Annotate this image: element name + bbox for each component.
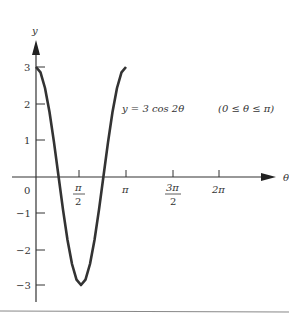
curve-3cos2theta bbox=[36, 67, 126, 285]
x-tick-pi-over-2-den: 2 bbox=[75, 196, 81, 207]
y-ticks bbox=[36, 67, 45, 285]
y-axis-label: y bbox=[31, 25, 38, 36]
origin-label: 0 bbox=[24, 185, 30, 196]
x-tick-2pi: 2π bbox=[211, 184, 225, 195]
x-tick-3pi-over-2-den: 2 bbox=[170, 196, 176, 207]
chart: y θ 0 3 2 1 −1 −2 −3 π 2 π 3π 2 2π y = 3… bbox=[0, 0, 289, 314]
x-axis-label: θ bbox=[283, 172, 289, 183]
x-tick-pi-over-2-num: π bbox=[74, 182, 82, 193]
x-ticks bbox=[79, 170, 219, 177]
x-tick-pi: π bbox=[121, 184, 129, 195]
x-axis-arrow-icon bbox=[261, 173, 276, 181]
y-tick-1: 1 bbox=[24, 135, 30, 146]
y-axis-arrow-icon bbox=[32, 40, 40, 55]
bottom-rule bbox=[0, 311, 289, 312]
domain-label: (0 ≤ θ ≤ π) bbox=[218, 103, 274, 114]
y-tick-m2: −2 bbox=[16, 245, 31, 256]
y-tick-3: 3 bbox=[24, 62, 30, 73]
y-tick-m1: −1 bbox=[16, 208, 31, 219]
x-tick-3pi-over-2-num: 3π bbox=[166, 182, 179, 193]
y-tick-m3: −3 bbox=[16, 280, 31, 291]
equation-label: y = 3 cos 2θ bbox=[121, 103, 184, 114]
y-tick-2: 2 bbox=[24, 99, 30, 110]
